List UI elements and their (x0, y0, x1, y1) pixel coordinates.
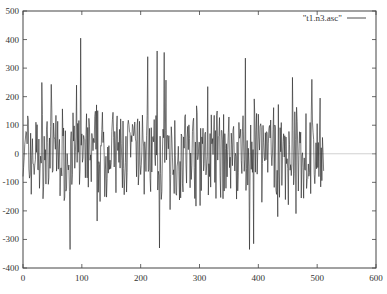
y-tick-label: 200 (6, 92, 20, 102)
y-tick-label: 400 (6, 35, 20, 45)
x-tick-label: 300 (193, 273, 207, 283)
y-tick-label: 500 (6, 6, 20, 16)
legend: "t1.n3.asc" (303, 13, 366, 23)
y-tick-label: 100 (6, 120, 20, 130)
x-tick-label: 400 (252, 273, 266, 283)
data-series-line (23, 38, 324, 249)
y-tick-label: -400 (3, 263, 20, 273)
x-tick-label: 500 (310, 273, 324, 283)
y-tick-label: -200 (3, 206, 20, 216)
x-tick-label: 600 (369, 273, 383, 283)
y-tick-label: -100 (3, 177, 20, 187)
x-tick-label: 100 (75, 273, 89, 283)
y-tick-label: -300 (3, 234, 20, 244)
y-tick-label: 300 (6, 63, 20, 73)
x-tick-label: 0 (21, 273, 26, 283)
y-tick-label: 0 (15, 149, 20, 159)
chart-container: 0100200300400500600-400-300-200-10001002… (0, 0, 387, 294)
line-chart: 0100200300400500600-400-300-200-10001002… (0, 0, 387, 294)
x-tick-label: 200 (134, 273, 148, 283)
legend-label: "t1.n3.asc" (303, 13, 343, 23)
